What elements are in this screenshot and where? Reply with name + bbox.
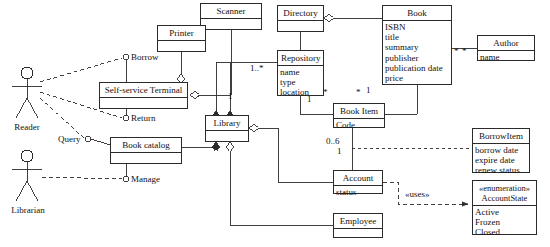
actor-librarian-label: Librarian (0, 205, 56, 215)
anchor-manage (123, 176, 128, 181)
class-book-item-name: Book Item (334, 104, 384, 119)
class-account-state-enumeration[interactable]: «enumeration» AccountState Active Frozen… (472, 180, 537, 235)
attribute: name (480, 52, 532, 62)
anchor-return (123, 115, 128, 120)
multiplicity-book-author-left: * (454, 47, 459, 56)
multiplicity-book-author-right: * (462, 47, 467, 56)
class-library[interactable]: Library (205, 115, 249, 142)
usecase-query-label[interactable]: Query (58, 134, 81, 144)
link-query-bookcatalog (91, 139, 110, 145)
class-directory-name: Directory (278, 6, 323, 21)
class-account-name: Account (334, 171, 382, 186)
link-library-account (258, 128, 333, 182)
multiplicity-book-bookitem-one: 1 (366, 86, 371, 95)
actor-reader-figure (12, 67, 42, 118)
class-employee-attributes (334, 229, 382, 240)
assoc-reader-borrow (40, 58, 122, 82)
class-scanner-attributes (201, 19, 261, 30)
usecase-manage-label[interactable]: Manage (131, 174, 160, 184)
diamond-library-employee (227, 142, 234, 151)
class-book-item[interactable]: Book Item Code (333, 103, 385, 128)
anchor-query (85, 136, 90, 141)
attribute: title (385, 32, 449, 42)
link-book-bookitem (385, 85, 417, 114)
class-book-attributes: ISBN title summary publisher publication… (383, 21, 451, 85)
class-repository[interactable]: Repository name type location (277, 50, 324, 96)
class-borrow-item[interactable]: BorrowItem borrow date expire date renew… (472, 128, 530, 173)
class-printer[interactable]: Printer (157, 25, 206, 52)
class-directory[interactable]: Directory (277, 5, 324, 32)
class-self-service-terminal[interactable]: Self-service Terminal (99, 82, 188, 109)
assoc-librarian-manage (42, 177, 122, 179)
enum-literal: Active (475, 207, 534, 217)
attribute: summary (385, 42, 449, 52)
class-employee[interactable]: Employee (333, 213, 383, 238)
anchor-borrow (123, 54, 128, 59)
diamond-library-account (249, 125, 258, 131)
class-author[interactable]: Author name (477, 35, 535, 61)
class-repository-name: Repository (278, 51, 323, 66)
class-book-item-attributes: Code (334, 119, 384, 132)
actor-librarian-figure (12, 150, 42, 201)
connector-layer (0, 0, 550, 247)
attribute: borrow date (475, 145, 527, 155)
class-book-catalog-attributes (111, 153, 181, 164)
attribute: type (280, 77, 321, 87)
multiplicity-repository-bookitem-many: * (323, 88, 328, 97)
attribute: location (280, 87, 321, 97)
usecase-borrow-label[interactable]: Borrow (131, 52, 159, 62)
class-account-state-literals: Active Frozen Closed (473, 206, 536, 240)
class-self-service-terminal-attributes (100, 98, 187, 109)
class-repository-attributes: name type location (278, 66, 323, 100)
class-library-name: Library (206, 116, 248, 131)
class-account[interactable]: Account status (333, 170, 383, 194)
diamond-directory-book (324, 15, 333, 21)
class-author-attributes: name (478, 51, 534, 64)
class-book[interactable]: Book ISBN title summary publisher public… (382, 5, 452, 85)
class-scanner[interactable]: Scanner (200, 3, 262, 30)
class-printer-attributes (158, 41, 205, 52)
enum-literal: Closed (475, 227, 534, 237)
link-repository-library (216, 62, 277, 111)
actor-reader-label: Reader (2, 122, 52, 132)
multiplicity-library-one: 1 (228, 92, 233, 101)
dependency-uses-label: «uses» (405, 190, 430, 199)
attribute: expire date (475, 155, 527, 165)
class-account-attributes: status (334, 186, 382, 199)
attribute: name (280, 67, 321, 77)
class-author-name: Author (478, 36, 534, 51)
attribute: Code (336, 120, 382, 130)
multiplicity-repository-library: 1..* (250, 64, 264, 73)
link-library-employee (230, 151, 333, 225)
class-borrow-item-attributes: borrow date expire date renew status (473, 144, 529, 178)
class-library-attributes (206, 131, 248, 142)
class-directory-attributes (278, 21, 323, 32)
class-book-catalog-name: Book catalog (111, 138, 181, 153)
diamond-scanner-terminal (190, 92, 199, 98)
enumeration-name: AccountState (476, 193, 533, 203)
usecase-return-label[interactable]: Return (131, 113, 156, 123)
attribute: publisher (385, 53, 449, 63)
diamond-library-bottom (213, 142, 220, 151)
multiplicity-account-bookitems: 0..6 (326, 137, 340, 146)
stereotype-enumeration: «enumeration» (476, 183, 533, 193)
attribute: status (336, 187, 380, 197)
uml-class-diagram: Scanner Printer Self-service Terminal Li… (0, 0, 550, 247)
multiplicity-account-one: 1 (337, 147, 342, 156)
class-employee-name: Employee (334, 214, 382, 229)
class-book-catalog[interactable]: Book catalog (110, 137, 182, 164)
multiplicity-repository-bookitem-one: 1 (307, 95, 312, 104)
assoc-reader-query (40, 98, 84, 138)
class-book-name: Book (383, 6, 451, 21)
class-borrow-item-name: BorrowItem (473, 129, 529, 144)
attribute: renew status (475, 165, 527, 175)
class-self-service-terminal-name: Self-service Terminal (100, 83, 187, 98)
attribute: price (385, 73, 449, 83)
enum-literal: Frozen (475, 217, 534, 227)
class-printer-name: Printer (158, 26, 205, 41)
attribute: publication date (385, 63, 449, 73)
attribute: ISBN (385, 22, 449, 32)
class-account-state-name: «enumeration» AccountState (473, 181, 536, 206)
class-scanner-name: Scanner (201, 4, 261, 19)
multiplicity-book-bookitem-many: * (356, 88, 361, 97)
